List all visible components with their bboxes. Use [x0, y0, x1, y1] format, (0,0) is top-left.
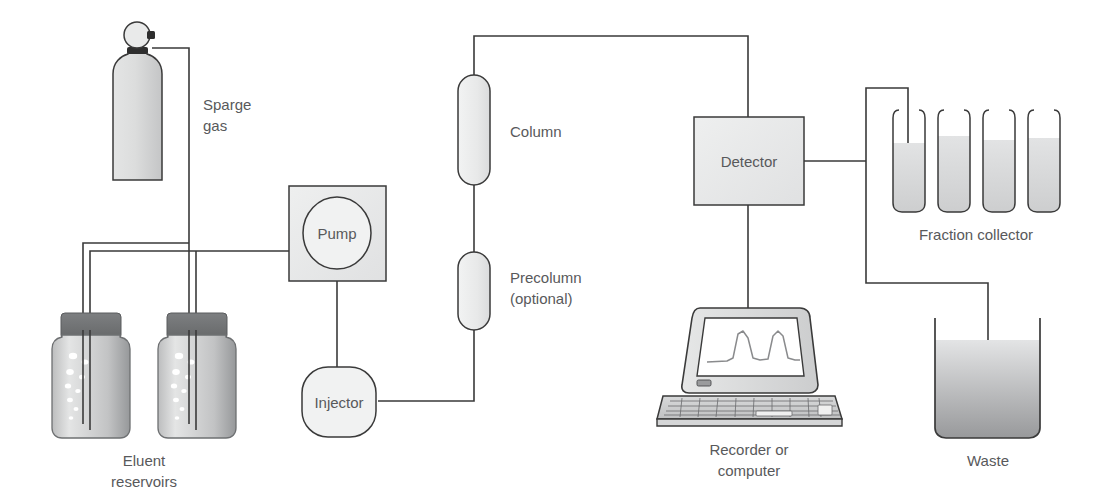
- column-label: Column: [510, 123, 562, 140]
- recorder-label-line1: Recorder or: [709, 441, 788, 458]
- keyboard-front-edge: [657, 419, 842, 426]
- fraction-tube-2-fill: [938, 136, 970, 212]
- fraction-tube-3: [983, 110, 1015, 212]
- recorder-computer: [657, 308, 842, 426]
- fraction-tube-3-fill: [983, 140, 1015, 212]
- precolumn-label-line1: Precolumn: [510, 269, 582, 286]
- fraction-collector-label: Fraction collector: [919, 226, 1033, 243]
- precolumn-body: [458, 252, 490, 330]
- hplc-schematic-canvas: Sparge gas: [0, 0, 1105, 500]
- pump-label: Pump: [317, 225, 356, 242]
- keyboard-numpad-enter-key[interactable]: [818, 405, 832, 415]
- eluent-reservoirs-label-line1: Eluent: [123, 452, 166, 469]
- sparge-gas-label-line1: Sparge: [203, 96, 251, 113]
- waste-beaker-liquid: [935, 340, 1040, 438]
- hplc-diagram: Sparge gas: [0, 0, 1105, 500]
- sparge-gas-cylinder: [113, 22, 162, 180]
- fraction-tube-4: [1028, 110, 1060, 212]
- column-to-detector-line: [474, 36, 748, 117]
- monitor-power-indicator[interactable]: [697, 380, 711, 386]
- fraction-tube-2: [938, 110, 970, 212]
- detector-label: Detector: [721, 153, 778, 170]
- column-body: [458, 75, 490, 185]
- eluent-reservoir-1: [52, 313, 130, 438]
- pump: Pump: [289, 186, 386, 281]
- sparge-gas-label-line2: gas: [203, 117, 227, 134]
- gas-cylinder-body: [113, 50, 162, 180]
- waste-label: Waste: [967, 452, 1009, 469]
- precolumn: [458, 252, 490, 330]
- keyboard-spacebar[interactable]: [756, 411, 792, 416]
- precolumn-label-line2: (optional): [510, 290, 573, 307]
- injector-label: Injector: [314, 394, 363, 411]
- detector: Detector: [694, 117, 804, 205]
- gas-cylinder-valve-outlet: [147, 31, 155, 39]
- fraction-tube-1-fill: [893, 143, 925, 212]
- recorder-label-line2: computer: [718, 462, 781, 479]
- keyboard-top[interactable]: [657, 396, 842, 419]
- eluent-reservoirs-label-line2: reservoirs: [111, 473, 177, 490]
- reservoir-2-body: [158, 335, 236, 438]
- injector: Injector: [302, 367, 376, 437]
- gas-cylinder-valve-knob: [124, 22, 150, 48]
- fraction-tube-4-fill: [1028, 138, 1060, 212]
- fraction-tube-1: [893, 110, 925, 212]
- fraction-collector: [893, 110, 1060, 212]
- eluent-reservoir-2: [158, 313, 236, 438]
- column: [458, 75, 490, 185]
- reservoir-1-body: [52, 335, 130, 438]
- injector-to-precolumn-line: [378, 330, 474, 401]
